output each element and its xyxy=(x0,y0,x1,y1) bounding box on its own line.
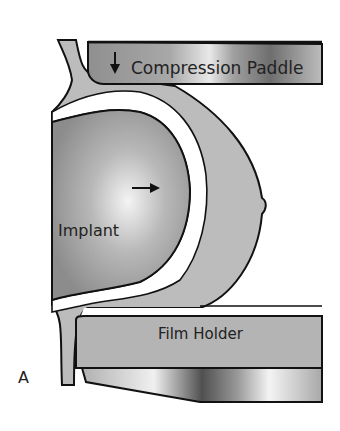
implant-label: Implant xyxy=(58,221,119,240)
film-holder-label: Film Holder xyxy=(158,325,244,343)
panel-label: A xyxy=(18,368,29,387)
film-holder-base xyxy=(82,368,322,402)
compression-paddle-label: Compression Paddle xyxy=(131,58,303,78)
implant-compression-diagram: Compression Paddle Film Holder Implant A xyxy=(0,0,340,431)
